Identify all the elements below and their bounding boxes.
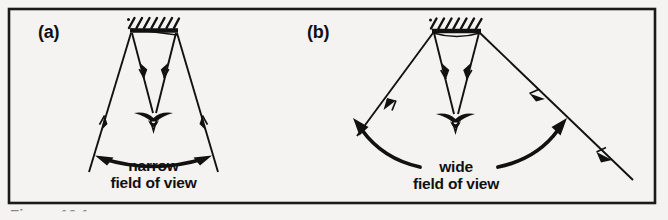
panel-b-tag: (b) [307,22,329,42]
ray-diagram-figure: (a) [0,0,668,220]
fov-label-a-line1: narrow [128,157,180,174]
fov-label-b-line1: wide [438,158,473,175]
panel-a-tag: (a) [38,22,59,42]
fov-label-a-line2: field of view [110,174,197,191]
figure-background [0,0,668,220]
figure-container: (a) [0,0,668,220]
fov-label-b-line2: field of view [413,175,500,192]
